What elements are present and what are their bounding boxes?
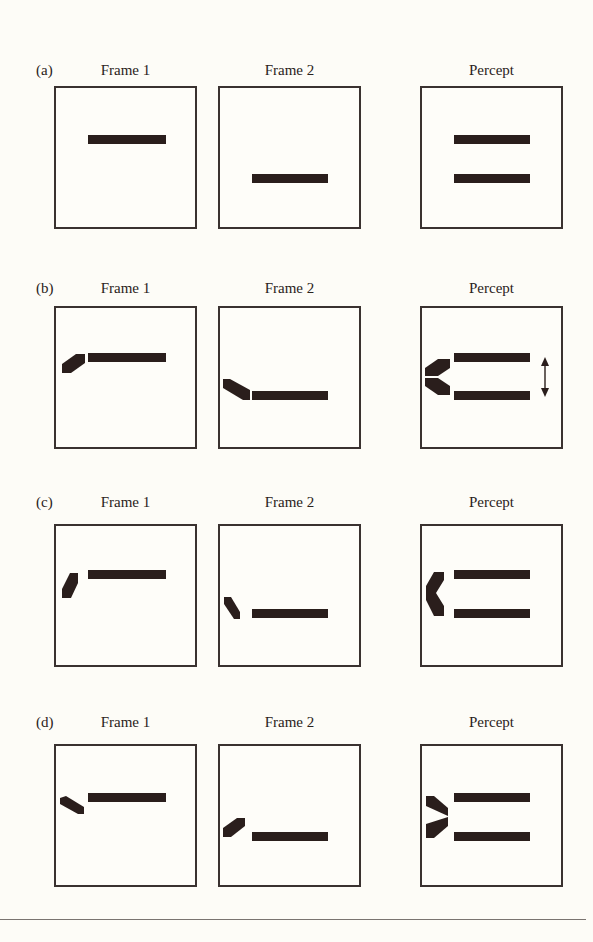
bar-with-flanker-icon [56,746,195,885]
col-label-frame2: Frame 2 [218,62,361,79]
panel-d-percept [420,744,563,887]
percept-arrowhead-icon [422,746,561,885]
row-label-a: (a) [36,62,53,79]
up-down-arrow-icon [422,308,561,447]
panel-d-frame2 [218,744,361,887]
percept-bracket-icon [422,526,561,665]
col-label-frame2: Frame 2 [218,280,361,297]
bar-with-flanker-icon [220,526,359,665]
panel-b-frame2 [218,306,361,449]
col-label-frame1: Frame 1 [54,280,197,297]
row-label-c: (c) [36,494,53,511]
col-label-frame1: Frame 1 [54,494,197,511]
panel-c-percept [420,524,563,667]
col-label-frame2: Frame 2 [218,714,361,731]
bar-with-flanker-icon [220,746,359,885]
panel-a-frame2 [218,86,361,229]
col-label-frame1: Frame 1 [54,62,197,79]
bottom-rule [0,919,586,920]
bar-icon [220,88,359,227]
bar-with-flanker-icon [56,526,195,665]
panel-c-frame2 [218,524,361,667]
bar-with-flanker-icon [220,308,359,447]
col-label-percept: Percept [420,714,563,731]
bar-with-flanker-icon [56,308,195,447]
panel-b-frame1 [54,306,197,449]
col-label-frame2: Frame 2 [218,494,361,511]
col-label-percept: Percept [420,62,563,79]
col-label-percept: Percept [420,494,563,511]
bar-icon [56,88,195,227]
row-label-d: (d) [36,714,54,731]
panel-a-percept [420,86,563,229]
panel-a-frame1 [54,86,197,229]
row-label-b: (b) [36,280,54,297]
col-label-frame1: Frame 1 [54,714,197,731]
panel-c-frame1 [54,524,197,667]
panel-d-frame1 [54,744,197,887]
panel-b-percept [420,306,563,449]
bars-icon [422,88,561,227]
col-label-percept: Percept [420,280,563,297]
